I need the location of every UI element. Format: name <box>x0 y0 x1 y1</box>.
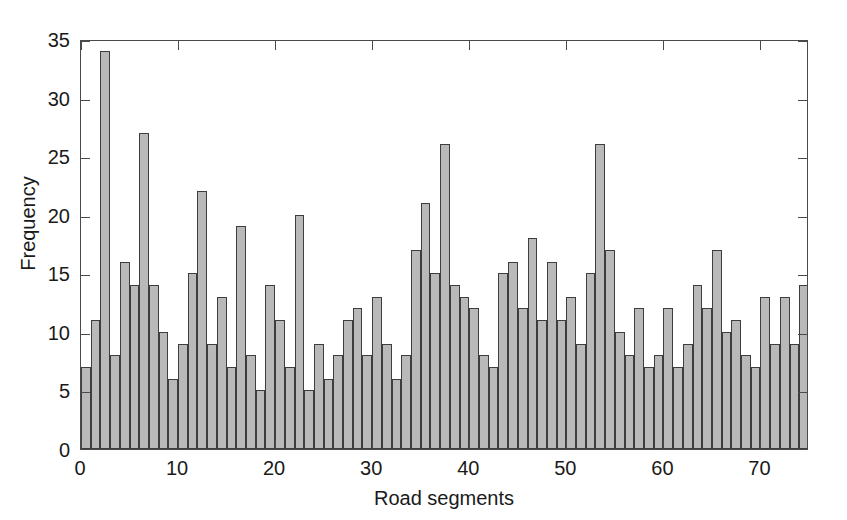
x-tick-label: 60 <box>651 458 673 478</box>
bar <box>130 285 140 449</box>
bar <box>178 344 188 449</box>
bar <box>440 144 450 449</box>
x-axis-label: Road segments <box>80 487 808 510</box>
bar <box>595 144 605 449</box>
x-tick-mark <box>178 41 179 50</box>
bar <box>780 297 790 449</box>
bar <box>188 273 198 449</box>
bar <box>770 344 780 449</box>
bar <box>663 308 673 449</box>
bar <box>392 379 402 449</box>
bar <box>450 285 460 449</box>
y-tick-mark <box>798 217 807 218</box>
bar <box>110 355 120 449</box>
bar <box>295 215 305 449</box>
bar <box>469 308 479 449</box>
bar <box>799 285 807 449</box>
bar <box>528 238 538 449</box>
y-tick-mark <box>798 41 807 42</box>
x-tick-mark <box>566 41 567 50</box>
y-tick-label: 15 <box>48 264 70 284</box>
y-axis-tick-labels: 05101520253035 <box>24 40 70 450</box>
x-tick-label: 0 <box>74 458 85 478</box>
bar <box>479 355 489 449</box>
bar <box>81 367 91 449</box>
y-tick-mark <box>81 217 90 218</box>
y-tick-label: 0 <box>59 440 70 460</box>
bar <box>741 355 751 449</box>
bar <box>343 320 353 449</box>
bar <box>275 320 285 449</box>
bar <box>256 390 266 449</box>
x-tick-mark <box>372 41 373 50</box>
bar <box>149 285 159 449</box>
bar <box>159 332 169 449</box>
y-tick-mark <box>81 100 90 101</box>
x-tick-mark <box>81 41 82 50</box>
x-tick-mark <box>469 41 470 50</box>
bar <box>197 191 207 449</box>
bar <box>566 297 576 449</box>
x-tick-mark <box>372 440 373 449</box>
x-tick-mark <box>275 440 276 449</box>
bar <box>324 379 334 449</box>
x-tick-mark <box>760 41 761 50</box>
x-tick-label: 40 <box>457 458 479 478</box>
x-tick-mark <box>663 440 664 449</box>
bar <box>489 367 499 449</box>
bar <box>217 297 227 449</box>
bar <box>430 273 440 449</box>
bar <box>314 344 324 449</box>
y-tick-mark <box>798 334 807 335</box>
bar <box>702 308 712 449</box>
x-tick-mark <box>178 440 179 449</box>
y-tick-label: 10 <box>48 323 70 343</box>
bar <box>372 297 382 449</box>
bar <box>634 308 644 449</box>
bar <box>625 355 635 449</box>
x-tick-mark <box>566 440 567 449</box>
y-tick-mark <box>81 392 90 393</box>
bar <box>304 390 314 449</box>
x-tick-mark <box>663 41 664 50</box>
bar <box>236 226 246 449</box>
bar <box>227 367 237 449</box>
chart-figure: Frequency 05101520253035 010203040506070… <box>0 0 847 520</box>
y-tick-mark <box>81 275 90 276</box>
bar <box>168 379 178 449</box>
x-tick-label: 20 <box>263 458 285 478</box>
bar <box>333 355 343 449</box>
x-axis-tick-labels: 010203040506070 <box>80 458 808 486</box>
bar <box>362 355 372 449</box>
bar <box>401 355 411 449</box>
bar <box>382 344 392 449</box>
bar <box>790 344 800 449</box>
bar <box>518 308 528 449</box>
y-tick-mark <box>798 275 807 276</box>
y-tick-label: 25 <box>48 147 70 167</box>
y-tick-mark <box>798 158 807 159</box>
bar <box>100 51 110 449</box>
y-tick-label: 35 <box>48 30 70 50</box>
x-tick-label: 30 <box>360 458 382 478</box>
bar <box>265 285 275 449</box>
bar <box>722 332 732 449</box>
bar <box>537 320 547 449</box>
y-tick-mark <box>81 41 90 42</box>
x-tick-mark <box>760 440 761 449</box>
y-tick-label: 30 <box>48 89 70 109</box>
bar <box>207 344 217 449</box>
bar <box>683 344 693 449</box>
bar <box>557 320 567 449</box>
bar <box>120 262 130 449</box>
bar <box>751 367 761 449</box>
bar <box>246 355 256 449</box>
bar <box>693 285 703 449</box>
bar <box>654 355 664 449</box>
bar <box>760 297 770 449</box>
x-tick-mark <box>81 440 82 449</box>
y-tick-mark <box>798 392 807 393</box>
bar <box>139 133 149 449</box>
bar <box>615 332 625 449</box>
bar <box>498 273 508 449</box>
